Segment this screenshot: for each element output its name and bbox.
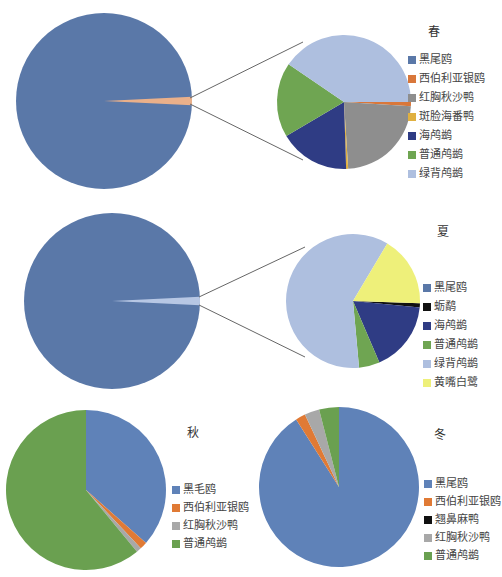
legend-swatch-icon	[408, 132, 416, 140]
legend-label: 红胸秋沙鸭	[183, 517, 238, 535]
legend-item: 蛎鹬	[423, 297, 478, 316]
winter-legend: 黑尾鸥西伯利亚银鸥翘鼻麻鸭红胸秋沙鸭普通鸬鹚	[424, 475, 501, 565]
legend-swatch-icon	[423, 341, 431, 349]
legend-label: 黄嘴白鹭	[434, 373, 478, 392]
spring-legend: 黑尾鸥西伯利亚银鸥红胸秋沙鸭斑脸海番鸭海鸬鹚普通鸬鹚绿背鸬鹚	[408, 50, 485, 183]
legend-item: 黄嘴白鹭	[423, 373, 478, 392]
legend-swatch-icon	[424, 534, 432, 542]
legend-label: 蛎鹬	[434, 297, 456, 316]
legend-label: 黑尾鸥	[434, 278, 467, 297]
spring-title: 春	[428, 22, 440, 39]
autumn-legend: 黑毛鸥西伯利亚银鸥红胸秋沙鸭普通鸬鹚	[172, 481, 249, 553]
legend-swatch-icon	[408, 113, 416, 121]
legend-item: 西伯利亚银鸥	[172, 499, 249, 517]
summer-title: 夏	[437, 222, 449, 239]
legend-item: 绿背鸬鹚	[423, 354, 478, 373]
legend-swatch-icon	[408, 151, 416, 159]
legend-label: 绿背鸬鹚	[434, 354, 478, 373]
legend-swatch-icon	[172, 540, 180, 548]
legend-label: 海鸬鹚	[419, 126, 452, 145]
legend-swatch-icon	[172, 522, 180, 530]
legend-label: 普通鸬鹚	[434, 335, 478, 354]
legend-label: 海鸬鹚	[434, 316, 467, 335]
summer-legend: 黑尾鸥蛎鹬海鸬鹚普通鸬鹚绿背鸬鹚黄嘴白鹭	[423, 278, 478, 392]
legend-swatch-icon	[423, 284, 431, 292]
legend-item: 普通鸬鹚	[423, 335, 478, 354]
legend-item: 西伯利亚银鸥	[424, 493, 501, 511]
legend-label: 普通鸬鹚	[183, 535, 227, 553]
legend-item: 黑尾鸥	[424, 475, 501, 493]
winter-title: 冬	[434, 425, 446, 442]
legend-item: 绿背鸬鹚	[408, 164, 485, 183]
legend-item: 红胸秋沙鸭	[424, 529, 501, 547]
legend-item: 普通鸬鹚	[424, 547, 501, 565]
legend-label: 西伯利亚银鸥	[435, 493, 501, 511]
legend-item: 黑尾鸥	[423, 278, 478, 297]
legend-item: 斑脸海番鸭	[408, 107, 485, 126]
legend-label: 翘鼻麻鸭	[435, 511, 479, 529]
legend-item: 红胸秋沙鸭	[408, 88, 485, 107]
legend-item: 海鸬鹚	[423, 316, 478, 335]
legend-swatch-icon	[424, 498, 432, 506]
legend-label: 西伯利亚银鸥	[419, 69, 485, 88]
legend-item: 普通鸬鹚	[172, 535, 249, 553]
legend-swatch-icon	[424, 552, 432, 560]
legend-item: 黑尾鸥	[408, 50, 485, 69]
legend-item: 西伯利亚银鸥	[408, 69, 485, 88]
legend-swatch-icon	[408, 56, 416, 64]
pie-slice-红胸秋沙鸭	[344, 102, 411, 169]
legend-item: 红胸秋沙鸭	[172, 517, 249, 535]
legend-label: 普通鸬鹚	[419, 145, 463, 164]
legend-swatch-icon	[423, 360, 431, 368]
legend-label: 黑尾鸥	[419, 50, 452, 69]
legend-item: 黑毛鸥	[172, 481, 249, 499]
legend-swatch-icon	[423, 303, 431, 311]
legend-item: 普通鸬鹚	[408, 145, 485, 164]
legend-label: 红胸秋沙鸭	[435, 529, 490, 547]
legend-item: 海鸬鹚	[408, 126, 485, 145]
autumn-title: 秋	[187, 423, 199, 440]
legend-label: 普通鸬鹚	[435, 547, 479, 565]
legend-swatch-icon	[423, 379, 431, 387]
legend-swatch-icon	[408, 75, 416, 83]
legend-label: 黑毛鸥	[183, 481, 216, 499]
legend-label: 绿背鸬鹚	[419, 164, 463, 183]
legend-item: 翘鼻麻鸭	[424, 511, 501, 529]
legend-swatch-icon	[424, 516, 432, 524]
legend-label: 西伯利亚银鸥	[183, 499, 249, 517]
legend-label: 红胸秋沙鸭	[419, 88, 474, 107]
legend-swatch-icon	[424, 480, 432, 488]
legend-swatch-icon	[423, 322, 431, 330]
legend-swatch-icon	[172, 486, 180, 494]
legend-swatch-icon	[408, 94, 416, 102]
legend-swatch-icon	[172, 504, 180, 512]
legend-label: 黑尾鸥	[435, 475, 468, 493]
legend-swatch-icon	[408, 170, 416, 178]
legend-label: 斑脸海番鸭	[419, 107, 474, 126]
